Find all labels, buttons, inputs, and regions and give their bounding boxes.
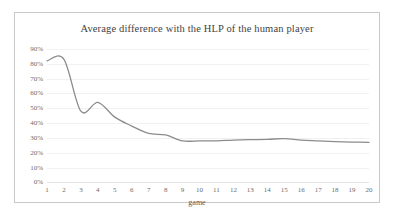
series-path (47, 56, 369, 142)
y-axis-tick-label: 80% (30, 60, 43, 68)
x-axis-label: game (15, 198, 379, 207)
y-axis-tick-label: 70% (30, 75, 43, 83)
y-axis-tick-label: 10% (30, 164, 43, 172)
y-axis-tick-label: 20% (30, 149, 43, 157)
y-axis-tick-label: 40% (30, 119, 43, 127)
y-axis-tick-label: 90% (30, 45, 43, 53)
data-series-line (47, 49, 369, 188)
plot-area: 90%80%70%60%50%40%30%20%10%0% 1234567891… (47, 49, 369, 182)
y-axis-tick-label: 30% (30, 134, 43, 142)
chart-title: Average difference with the HLP of the h… (15, 23, 379, 34)
chart-frame: Average difference with the HLP of the h… (14, 12, 380, 203)
y-axis-tick-label: 0% (34, 178, 43, 186)
y-axis-tick-label: 50% (30, 104, 43, 112)
y-axis-tick-label: 60% (30, 89, 43, 97)
